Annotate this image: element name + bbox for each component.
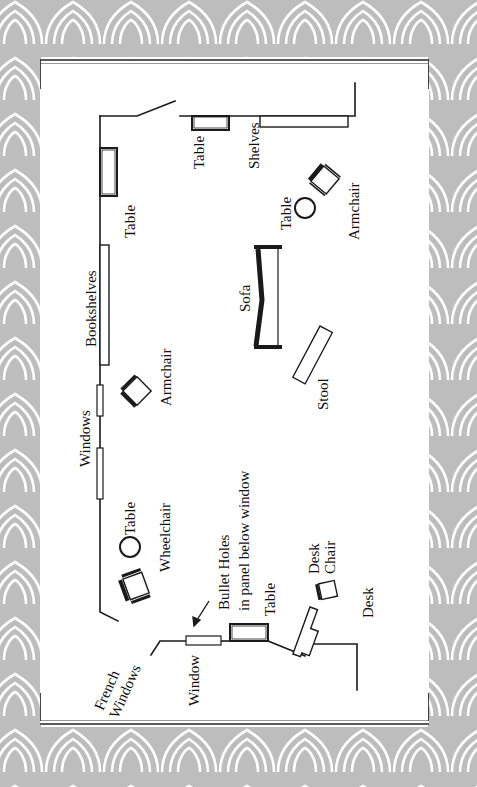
label-table-bottom: Table — [262, 583, 278, 616]
window-left-2 — [97, 448, 103, 499]
window-left-1 — [97, 385, 103, 416]
label-bookshelves: Bookshelves — [83, 270, 99, 347]
label-sofa: Sofa — [237, 285, 253, 313]
table-round-right — [295, 198, 315, 218]
sofa — [254, 247, 282, 347]
label-desk-chair-line1: Desk — [306, 543, 322, 574]
stool — [293, 326, 333, 384]
label-table-top-left: Table — [191, 136, 207, 169]
window-bottom — [186, 636, 221, 645]
label-wheelchair: Wheelchair — [157, 503, 173, 572]
wall-top-right — [180, 83, 355, 116]
desk — [293, 607, 325, 659]
label-table-round-left: Table — [122, 502, 138, 535]
label-bullet-holes-line2: in panel below window — [236, 471, 252, 611]
label-bullet-holes-line1: Bullet Holes — [216, 535, 232, 610]
label-stool: Stool — [315, 378, 331, 410]
door-top-left — [100, 101, 175, 116]
shelves-top-wall — [260, 116, 348, 127]
floor-plan-drawing — [0, 0, 477, 787]
table-bottom-wall — [230, 624, 268, 641]
armchair-right — [308, 163, 340, 196]
label-windows: Windows — [77, 410, 93, 467]
label-window: Window — [186, 655, 202, 706]
wheelchair — [119, 569, 150, 603]
desk-chair — [317, 581, 338, 600]
label-desk-chair-line2: Chair — [322, 541, 338, 574]
table-round-left — [120, 537, 140, 557]
label-shelves: Shelves — [246, 122, 262, 169]
label-table-round-right: Table — [278, 197, 294, 230]
french-window-leaf — [151, 641, 186, 655]
armchair-left — [120, 375, 151, 406]
table-left-wall — [100, 148, 117, 196]
wall-bottom-right — [314, 644, 357, 690]
bullet-holes-arrow — [193, 601, 209, 626]
label-table-left-wall: Table — [122, 205, 138, 238]
label-armchair-left: Armchair — [158, 349, 174, 406]
label-armchair-right: Armchair — [346, 183, 362, 240]
label-desk: Desk — [360, 587, 376, 618]
bookshelves — [100, 245, 109, 365]
